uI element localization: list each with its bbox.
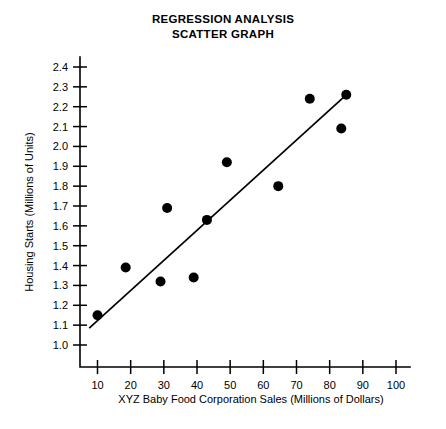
data-point [189, 272, 199, 282]
data-point [202, 215, 212, 225]
x-tick-label: 50 [224, 379, 236, 391]
x-tick-label: 40 [191, 379, 203, 391]
y-tick-label: 1.3 [53, 279, 68, 291]
y-tick-label: 1.0 [53, 339, 68, 351]
x-tick-label: 60 [257, 379, 269, 391]
y-tick-label: 2.0 [53, 140, 68, 152]
x-tick-label: 90 [357, 379, 369, 391]
data-point [273, 181, 283, 191]
y-tick-label: 2.2 [53, 101, 68, 113]
scatter-chart: REGRESSION ANALYSIS SCATTER GRAPH 1.01.1… [0, 0, 446, 429]
y-tick-label: 1.8 [53, 180, 68, 192]
data-point [121, 263, 131, 273]
data-point [93, 310, 103, 320]
data-point [222, 157, 232, 167]
y-tick-label: 1.4 [53, 260, 68, 272]
y-tick-label: 1.6 [53, 220, 68, 232]
y-tick-label: 1.9 [53, 160, 68, 172]
x-tick-label: 10 [91, 379, 103, 391]
x-tick-label: 30 [158, 379, 170, 391]
x-tick-label: 80 [324, 379, 336, 391]
y-tick-label: 1.2 [53, 299, 68, 311]
y-tick-label: 2.3 [53, 81, 68, 93]
data-point [305, 94, 315, 104]
y-tick-label: 2.4 [53, 61, 68, 73]
y-axis-title: Housing Starts (Millions of Units) [23, 132, 35, 292]
y-tick-label: 1.5 [53, 240, 68, 252]
y-tick-label: 1.7 [53, 200, 68, 212]
data-point [162, 203, 172, 213]
x-axis-tick-labels: 102030405060708090100 [91, 379, 405, 391]
x-tick-label: 20 [125, 379, 137, 391]
data-point [336, 124, 346, 134]
x-tick-label: 70 [290, 379, 302, 391]
x-tick-label: 100 [387, 379, 405, 391]
y-tick-label: 1.1 [53, 319, 68, 331]
axis-lines [80, 57, 410, 367]
x-axis-title: XYZ Baby Food Corporation Sales (Million… [118, 393, 383, 405]
data-point [341, 90, 351, 100]
data-point [156, 276, 166, 286]
y-axis-tick-labels: 1.01.11.21.31.41.51.61.71.81.92.02.12.22… [53, 61, 68, 351]
regression-line [89, 95, 346, 328]
y-tick-label: 2.1 [53, 121, 68, 133]
plot-area: 1.01.11.21.31.41.51.61.71.81.92.02.12.22… [0, 0, 446, 429]
